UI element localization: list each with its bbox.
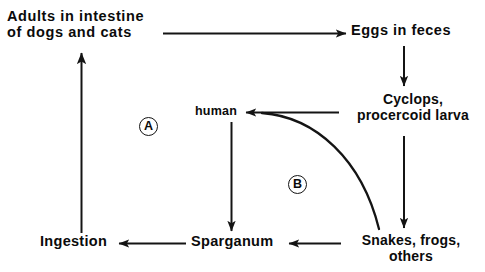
node-ingestion-line1: Ingestion (40, 233, 107, 249)
node-snakes-line2: others (389, 248, 433, 264)
node-sparganum: Sparganum (191, 233, 273, 249)
node-cyclops-line2: procercoid larva (357, 107, 469, 123)
node-human-line1: human (195, 104, 237, 118)
edge-cyclops-to-snakes-curved (262, 113, 379, 229)
node-human: human (195, 104, 237, 118)
cycle-marker-b: B (288, 175, 307, 194)
node-adults-in-intestine: Adults in intestineof dogs and cats (7, 8, 144, 40)
life-cycle-diagram: Adults in intestineof dogs and cats Eggs… (0, 0, 485, 272)
node-eggs-line1: Eggs in feces (351, 22, 451, 38)
node-adults-line2: of dogs and cats (7, 24, 132, 40)
node-cyclops-procercoid-larva: Cyclops,procercoid larva (345, 92, 481, 123)
node-cyclops-line1: Cyclops, (383, 91, 443, 107)
node-snakes-line1: Snakes, frogs, (362, 232, 461, 248)
node-snakes-frogs-others: Snakes, frogs,others (344, 233, 478, 264)
node-eggs-in-feces: Eggs in feces (351, 22, 451, 38)
node-ingestion: Ingestion (40, 233, 107, 249)
cycle-marker-a: A (139, 117, 158, 136)
node-sparganum-line1: Sparganum (191, 233, 273, 249)
node-adults-line1: Adults in intestine (7, 8, 144, 24)
